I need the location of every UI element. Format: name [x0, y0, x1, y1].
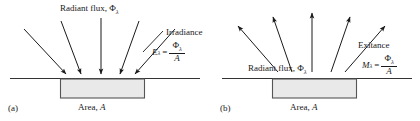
panel-tag-a: (a): [8, 103, 18, 113]
area-symbol-a: A: [100, 102, 106, 112]
area-label-b: Area, A: [290, 103, 318, 112]
exitance-equation-lhs-subscript: λ: [370, 62, 373, 69]
exitance-fraction: Φλ A: [381, 54, 396, 76]
exitance-equals-sign: =: [374, 60, 379, 70]
radiant-flux-text-b: Radiant flux, Φ: [248, 63, 304, 73]
exitance-equation-lhs: M: [362, 60, 370, 70]
area-block-a: [61, 79, 145, 98]
radiant-flux-label-b: Radiant flux, Φλ: [248, 64, 307, 75]
flux-arrow-a-1: [24, 29, 66, 74]
exitance-numerator: Φλ: [381, 54, 396, 66]
radiometry-figure: Radiant flux, Φλ Irradiance Eλ = Φλ A (a…: [0, 0, 420, 121]
area-label-a: Area, A: [78, 103, 106, 112]
irradiance-fraction: Φλ A: [169, 41, 184, 63]
panel-tag-b: (b): [220, 103, 231, 113]
irradiance-callout-label: Irradiance: [166, 28, 202, 37]
flux-arrow-a-2: [61, 21, 81, 74]
irradiance-denominator: A: [171, 54, 183, 63]
radiant-flux-subscript-a: λ: [116, 8, 119, 15]
exitance-equation: Mλ = Φλ A: [362, 54, 397, 76]
irradiance-numerator-symbol: Φ: [172, 40, 179, 50]
flux-arrow-a-4: [120, 21, 139, 74]
irradiance-numerator: Φλ: [169, 41, 184, 53]
area-label-text-b: Area,: [290, 102, 312, 112]
area-label-text-a: Area,: [78, 102, 100, 112]
irradiance-equals-sign: =: [162, 47, 167, 57]
area-symbol-b: A: [312, 102, 318, 112]
radiant-flux-text-a: Radiant flux, Φ: [60, 3, 116, 13]
figure-artwork: [0, 0, 420, 121]
area-block-b: [273, 79, 357, 98]
irradiance-numerator-subscript: λ: [179, 45, 182, 52]
exitance-denominator: A: [383, 67, 395, 76]
irradiance-equation: Eλ = Φλ A: [152, 41, 185, 63]
radiant-flux-subscript-b: λ: [304, 68, 307, 75]
exitance-numerator-symbol: Φ: [384, 53, 391, 63]
exitance-numerator-subscript: λ: [391, 58, 394, 65]
irradiance-equation-lhs-subscript: λ: [158, 49, 161, 56]
radiant-flux-label-a: Radiant flux, Φλ: [60, 4, 119, 15]
flux-arrow-b-4: [331, 17, 350, 72]
exitance-callout-label: Exitance: [358, 41, 389, 50]
